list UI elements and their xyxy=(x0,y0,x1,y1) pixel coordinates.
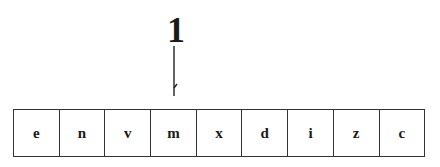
tape-cell: c xyxy=(380,110,426,156)
tape-cell: e xyxy=(14,110,60,156)
tape-cell: x xyxy=(197,110,243,156)
tape-cell: m xyxy=(151,110,197,156)
tape-cell: i xyxy=(288,110,334,156)
tape: e n v m x d i z c xyxy=(13,109,425,157)
tape-cell: z xyxy=(334,110,380,156)
pointer-arrow-icon xyxy=(168,46,182,98)
tape-cell: n xyxy=(60,110,106,156)
pointer-label: 1 xyxy=(163,12,189,48)
tape-cell: v xyxy=(105,110,151,156)
tape-cell: d xyxy=(242,110,288,156)
